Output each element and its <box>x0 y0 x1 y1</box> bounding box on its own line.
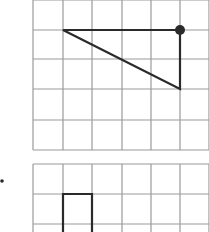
bullet-dot <box>0 179 4 183</box>
grid-figure <box>0 0 209 232</box>
top-grid <box>33 0 209 150</box>
bottom-grid <box>33 164 209 232</box>
marked-vertex-dot <box>175 25 185 35</box>
rectangle-shape <box>63 194 92 232</box>
